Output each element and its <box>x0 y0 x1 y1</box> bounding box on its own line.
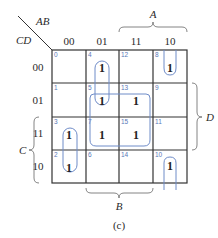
brace-d-label: D <box>205 111 214 123</box>
cell-value: 1 <box>66 161 72 175</box>
cell-index: 8 <box>155 51 159 58</box>
cell-index: 12 <box>121 51 129 58</box>
cell-value: 1 <box>99 128 105 142</box>
cell-index: 4 <box>88 51 92 58</box>
karnaugh-map: AB CD 00 01 11 10 00 01 11 10 A D C B 0 … <box>0 0 218 238</box>
cell-index: 13 <box>121 84 129 91</box>
figure-caption: (c) <box>113 219 126 232</box>
cell-value: 1 <box>167 159 173 173</box>
brace-d <box>192 83 202 150</box>
cell-value: 1 <box>66 128 72 142</box>
row-label-00: 00 <box>33 61 45 73</box>
cell-value: 1 <box>99 94 105 108</box>
col-variable-label: AB <box>35 15 50 27</box>
cell-index: 5 <box>88 84 92 91</box>
col-label-11: 11 <box>131 35 142 47</box>
col-label-01: 01 <box>97 35 108 47</box>
cell-index: 1 <box>54 84 58 91</box>
col-label-10: 10 <box>165 35 177 47</box>
cell-index: 9 <box>155 84 159 91</box>
row-label-01: 01 <box>33 94 44 106</box>
brace-b <box>86 188 153 198</box>
cell-value: 1 <box>99 61 105 75</box>
cell-value: 1 <box>167 61 173 75</box>
cell-index: 10 <box>155 151 163 158</box>
row-variable-label: CD <box>16 34 31 46</box>
col-label-00: 00 <box>64 35 76 47</box>
cell-index: 2 <box>54 151 58 158</box>
cell-index: 0 <box>54 51 58 58</box>
cell-index: 6 <box>88 151 92 158</box>
cell-index: 14 <box>121 151 129 158</box>
cell-index: 15 <box>121 118 129 125</box>
cell-index: 11 <box>155 118 162 125</box>
brace-c-label: C <box>19 144 27 156</box>
cell-value: 1 <box>133 94 139 108</box>
brace-a <box>119 22 187 32</box>
cell-value: 1 <box>133 128 139 142</box>
brace-b-label: B <box>116 200 123 212</box>
cell-index: 3 <box>54 118 58 125</box>
brace-a-label: A <box>149 8 157 20</box>
